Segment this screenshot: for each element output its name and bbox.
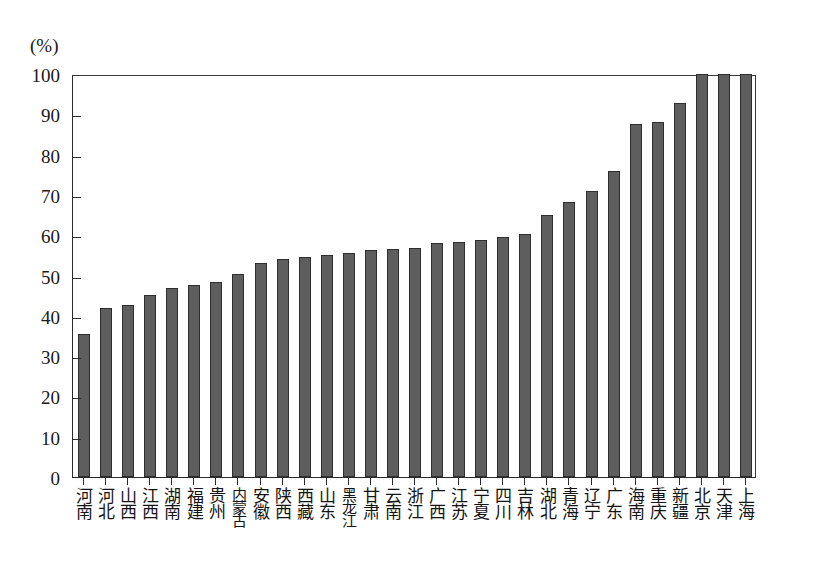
bar-宁夏 — [475, 240, 487, 477]
x-axis-tick-mark — [171, 478, 172, 485]
x-axis-label-黑龙江: 黑龙江 — [340, 487, 355, 526]
x-axis-tick-mark — [370, 478, 371, 485]
x-axis-tick-mark — [502, 478, 503, 485]
x-axis-label-湖北: 湖北 — [538, 487, 555, 519]
bar-黑龙江 — [343, 253, 355, 477]
y-axis-tick-label: 90 — [0, 106, 66, 125]
x-axis-tick-mark — [260, 478, 261, 485]
y-axis-tick-label: 30 — [0, 348, 66, 367]
bar-江苏 — [453, 242, 465, 477]
y-axis-tick-label: 100 — [0, 66, 66, 85]
bar-北京 — [696, 74, 708, 477]
x-axis-label-上海: 上海 — [736, 487, 753, 519]
x-axis-label-湖南: 湖南 — [163, 487, 180, 519]
y-axis-tick-mark — [73, 398, 81, 399]
x-axis-tick-mark — [657, 478, 658, 485]
x-axis-label-江苏: 江苏 — [449, 487, 466, 519]
bar-新疆 — [674, 103, 686, 477]
x-axis-tick-mark — [723, 478, 724, 485]
x-axis-label-甘肃: 甘肃 — [361, 487, 378, 519]
x-axis-label-福建: 福建 — [185, 487, 202, 519]
x-axis-tick-mark — [745, 478, 746, 485]
y-axis-tick-label: 60 — [0, 227, 66, 246]
x-axis-label-河北: 河北 — [96, 487, 113, 519]
x-axis-label-北京: 北京 — [692, 487, 709, 519]
bar-青海 — [563, 202, 575, 477]
x-axis-tick-mark — [304, 478, 305, 485]
bar-上海 — [740, 74, 752, 477]
x-axis-tick-mark — [326, 478, 327, 485]
x-axis-label-四川: 四川 — [494, 487, 511, 519]
y-axis-tick-label: 40 — [0, 307, 66, 326]
y-axis-tick-labels: 0102030405060708090100 — [0, 75, 66, 478]
x-axis-tick-mark — [392, 478, 393, 485]
y-axis-tick-label: 20 — [0, 388, 66, 407]
x-axis-label-河南: 河南 — [74, 487, 91, 519]
y-axis-tick-mark — [73, 318, 81, 319]
bar-湖北 — [541, 215, 553, 477]
x-axis-tick-marks — [72, 478, 756, 485]
x-axis-tick-mark — [237, 478, 238, 485]
x-axis-label-海南: 海南 — [626, 487, 643, 519]
x-axis-tick-mark — [149, 478, 150, 485]
x-axis-label-山东: 山东 — [317, 487, 334, 519]
bar-广东 — [608, 171, 620, 477]
x-axis-tick-mark — [701, 478, 702, 485]
x-axis-label-浙江: 浙江 — [405, 487, 422, 519]
y-axis-tick-mark — [73, 237, 81, 238]
bar-重庆 — [652, 122, 664, 477]
x-axis-tick-mark — [105, 478, 106, 485]
bar-四川 — [497, 237, 509, 477]
bar-湖南 — [166, 288, 178, 477]
x-axis-tick-mark — [679, 478, 680, 485]
bar-江西 — [144, 295, 156, 477]
x-axis-tick-mark — [613, 478, 614, 485]
plot-area — [72, 75, 756, 478]
y-axis-tick-label: 50 — [0, 267, 66, 286]
x-axis-label-天津: 天津 — [714, 487, 731, 519]
x-axis-label-重庆: 重庆 — [648, 487, 665, 519]
y-axis-tick-label: 80 — [0, 146, 66, 165]
x-axis-label-江西: 江西 — [141, 487, 158, 519]
bars-layer — [73, 76, 755, 477]
y-axis-tick-mark — [73, 197, 81, 198]
x-axis-label-陕西: 陕西 — [273, 487, 290, 519]
x-axis-tick-mark — [215, 478, 216, 485]
bar-山东 — [321, 255, 333, 477]
x-axis-tick-mark — [480, 478, 481, 485]
bar-河北 — [100, 308, 112, 477]
bar-辽宁 — [586, 191, 598, 477]
x-axis-category-labels: 河南河北山西江西湖南福建贵州内蒙古安徽陕西西藏山东黑龙江甘肃云南浙江广西江苏宁夏… — [72, 487, 756, 586]
bar-西藏 — [299, 257, 311, 477]
x-axis-tick-mark — [282, 478, 283, 485]
y-axis-tick-mark — [73, 439, 81, 440]
bar-浙江 — [409, 248, 421, 477]
y-axis-tick-label: 0 — [0, 469, 66, 488]
x-axis-tick-mark — [591, 478, 592, 485]
x-axis-label-贵州: 贵州 — [207, 487, 224, 519]
bar-陕西 — [277, 259, 289, 477]
bar-天津 — [718, 74, 730, 477]
y-axis-tick-mark — [73, 157, 81, 158]
x-axis-tick-mark — [348, 478, 349, 485]
bar-安徽 — [255, 263, 267, 477]
bar-吉林 — [519, 234, 531, 477]
x-axis-tick-mark — [524, 478, 525, 485]
x-axis-tick-mark — [546, 478, 547, 485]
x-axis-tick-mark — [458, 478, 459, 485]
bar-云南 — [387, 249, 399, 477]
bar-山西 — [122, 305, 134, 477]
bar-贵州 — [210, 282, 222, 477]
y-axis-tick-label: 10 — [0, 428, 66, 447]
x-axis-label-宁夏: 宁夏 — [472, 487, 489, 519]
x-axis-label-安徽: 安徽 — [251, 487, 268, 519]
x-axis-label-吉林: 吉林 — [516, 487, 533, 519]
bar-广西 — [431, 243, 443, 477]
x-axis-label-山西: 山西 — [118, 487, 135, 519]
x-axis-tick-mark — [635, 478, 636, 485]
x-axis-label-新疆: 新疆 — [670, 487, 687, 519]
bar-河南 — [78, 334, 90, 477]
x-axis-tick-mark — [193, 478, 194, 485]
x-axis-label-广西: 广西 — [427, 487, 444, 519]
y-axis-tick-mark — [73, 278, 81, 279]
